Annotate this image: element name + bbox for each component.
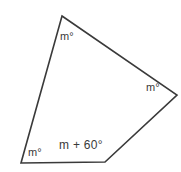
angle-label-right: m°	[146, 81, 160, 93]
angle-label-bottom-left: m°	[28, 146, 42, 158]
quadrilateral-figure: m° m° m° m + 60°	[0, 0, 181, 172]
angle-label-top: m°	[60, 30, 74, 42]
angle-label-bottom-edge: m + 60°	[59, 139, 103, 151]
